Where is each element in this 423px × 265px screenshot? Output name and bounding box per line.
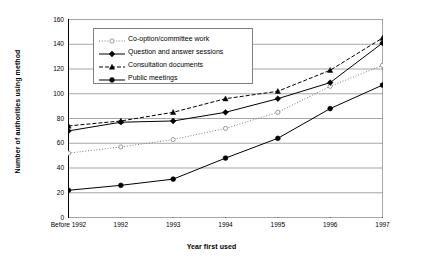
legend-marker-icon bbox=[98, 33, 126, 45]
x-tick-label: 1997 bbox=[375, 221, 389, 229]
legend-marker-icon bbox=[98, 59, 126, 71]
legend-label: Consultation documents bbox=[126, 60, 203, 69]
x-tick-label: 1995 bbox=[271, 221, 285, 229]
x-tick-label: 1993 bbox=[166, 221, 180, 229]
x-axis-title: Year first used bbox=[0, 243, 423, 250]
x-tick-label: 1992 bbox=[114, 221, 128, 229]
legend-item-0[interactable]: Co-option/committee work bbox=[98, 32, 248, 45]
legend-item-1[interactable]: Question and answer sessions bbox=[98, 45, 248, 58]
y-tick-label: 100 bbox=[53, 90, 64, 97]
legend-label: Co-option/committee work bbox=[126, 34, 209, 43]
x-axis-tick-labels: Before 1992199219931994199519961997 bbox=[0, 221, 423, 235]
y-tick-label: 80 bbox=[57, 115, 64, 122]
y-tick-label: 0 bbox=[60, 214, 64, 221]
y-tick-label: 160 bbox=[53, 16, 64, 23]
y-tick-label: 120 bbox=[53, 65, 64, 72]
legend-label: Question and answer sessions bbox=[126, 47, 223, 56]
x-tick-label: Before 1992 bbox=[51, 221, 86, 229]
x-tick-label: 1996 bbox=[323, 221, 337, 229]
legend-item-2[interactable]: Consultation documents bbox=[98, 58, 248, 71]
legend-label: Public meetings bbox=[126, 73, 177, 82]
x-tick-label: 1994 bbox=[218, 221, 232, 229]
chart-legend: Co-option/committee workQuestion and ans… bbox=[93, 28, 253, 84]
y-tick-label: 140 bbox=[53, 40, 64, 47]
y-tick-label: 20 bbox=[57, 189, 64, 196]
legend-marker-icon bbox=[98, 46, 126, 58]
y-tick-label: 40 bbox=[57, 164, 64, 171]
y-tick-label: 60 bbox=[57, 139, 64, 146]
y-axis-tick-labels: 020406080100120140160 bbox=[40, 12, 64, 225]
legend-marker-icon bbox=[98, 72, 126, 84]
legend-item-3[interactable]: Public meetings bbox=[98, 71, 248, 84]
line-chart: Number of authorities using method Year … bbox=[0, 0, 423, 265]
y-axis-title: Number of authorities using method bbox=[14, 27, 21, 197]
